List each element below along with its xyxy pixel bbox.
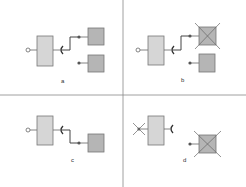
provided-port-icon (26, 48, 30, 52)
panel-label-a: a (61, 78, 64, 84)
dependency-box (88, 55, 104, 72)
component-box (148, 36, 164, 65)
provided-port-icon (136, 48, 140, 52)
panel-b (136, 23, 220, 72)
required-socket-icon (171, 125, 173, 133)
dependency-box (199, 54, 215, 72)
panel-label-c: c (71, 157, 74, 163)
panel-label-b: b (181, 77, 184, 83)
provided-port-icon (26, 128, 30, 132)
panel-label-d: d (183, 157, 186, 163)
component-box (37, 36, 53, 66)
component-box (148, 116, 164, 145)
dependency-box (88, 28, 104, 45)
diagram-canvas (0, 0, 246, 187)
component-box (37, 116, 53, 145)
panel-a (26, 28, 104, 72)
dependency-box (88, 134, 104, 152)
panel-c (26, 116, 104, 152)
panel-d (133, 116, 221, 157)
